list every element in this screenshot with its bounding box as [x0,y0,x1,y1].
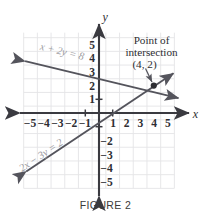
y-tick-label: 5 [89,39,95,51]
y-tick-label: 2 [89,80,95,92]
coordinate-plane-graph: −5 −4 −3 −2 −1 1 2 3 4 5 5 4 3 2 1 −2 −3… [0,0,211,218]
x-tick-label: 5 [165,117,171,129]
x-tick-label: −1 [79,117,92,129]
annotation-pointer-arrow [146,69,153,83]
y-tick-label: −5 [100,176,113,188]
y-tick-label: 4 [89,52,95,64]
x-tick-label: 4 [151,117,157,129]
figure-caption: FIGURE 2 [0,199,211,211]
annotation-line-1: Point of [134,34,170,46]
figure-container: −5 −4 −3 −2 −1 1 2 3 4 5 5 4 3 2 1 −2 −3… [0,0,211,218]
x-tick-label: 1 [110,117,116,129]
y-axis-label: y [102,10,109,24]
y-axis-tick-labels-positive: 5 4 3 2 1 [89,39,95,106]
y-tick-label: 1 [89,93,95,105]
annotation-line-2: intersection [125,46,178,58]
y-tick-label: −2 [100,135,113,147]
y-tick-label: −4 [100,162,113,174]
x-tick-label: 3 [138,117,144,129]
x-tick-label: −5 [24,117,37,129]
x-tick-label: −2 [65,117,78,129]
line-label-2x-minus-3y-equals-2: 2x − 3y = 2 [17,136,65,173]
y-tick-label: 3 [89,66,95,78]
annotation-coordinates: (4, 2) [132,58,157,71]
y-tick-label: −3 [100,149,113,161]
x-tick-label: 2 [124,117,130,129]
x-tick-label: −3 [51,117,64,129]
x-tick-label: −4 [38,117,51,129]
y-axis-tick-labels-negative: −2 −3 −4 −5 [100,135,113,188]
intersection-point-marker [151,83,157,89]
x-axis-label: x [192,107,199,121]
